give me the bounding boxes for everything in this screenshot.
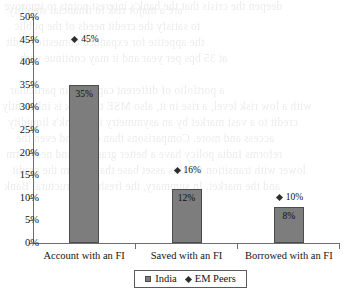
legend-item-em-peers: EM Peers (186, 274, 236, 285)
bar-value-label: 35% (59, 90, 109, 100)
legend-label: India (155, 274, 177, 285)
y-axis-tick-label: 0% (5, 238, 39, 249)
y-axis-tick-label: 15% (5, 170, 39, 181)
y-axis-tick-label: 45% (5, 35, 39, 46)
x-axis-category-label: Saved with an FI (135, 250, 237, 261)
y-axis-tick-label: 10% (5, 193, 39, 204)
data-point-label: 45% (81, 35, 98, 45)
x-axis-category-label: Borrowed with an FI (238, 250, 340, 261)
y-axis-tick-label: 40% (5, 57, 39, 68)
x-axis-tick (237, 244, 238, 249)
y-axis-tick-label: 20% (5, 148, 39, 159)
bar-value-label: 8% (264, 212, 314, 222)
data-point-marker (276, 194, 283, 201)
legend-item-india: India (145, 274, 177, 285)
y-axis-tick-label: 25% (5, 125, 39, 136)
y-axis-tick-label: 50% (5, 12, 39, 23)
y-axis-tick-label: 35% (5, 80, 39, 91)
legend: India EM Peers (134, 270, 247, 288)
legend-label: EM Peers (195, 274, 236, 285)
data-point-label: 16% (184, 166, 201, 176)
legend-square-swatch-icon (145, 276, 151, 282)
y-axis-tick-label: 5% (5, 215, 39, 226)
data-point-marker (173, 167, 180, 174)
bar-value-label: 12% (162, 194, 212, 204)
bar (69, 85, 99, 243)
x-axis-tick (339, 244, 340, 249)
legend-diamond-swatch-icon (185, 275, 192, 282)
x-axis-category-label: Account with an FI (33, 250, 135, 261)
x-axis-line (33, 243, 340, 244)
data-point-label: 10% (286, 193, 303, 203)
y-axis-tick-label: 30% (5, 102, 39, 113)
data-point-marker (71, 36, 78, 43)
x-axis-tick (135, 244, 136, 249)
bar-chart: 50%45%40%35%30%25%20%15%10%5%0% 35%45%12… (0, 0, 350, 302)
